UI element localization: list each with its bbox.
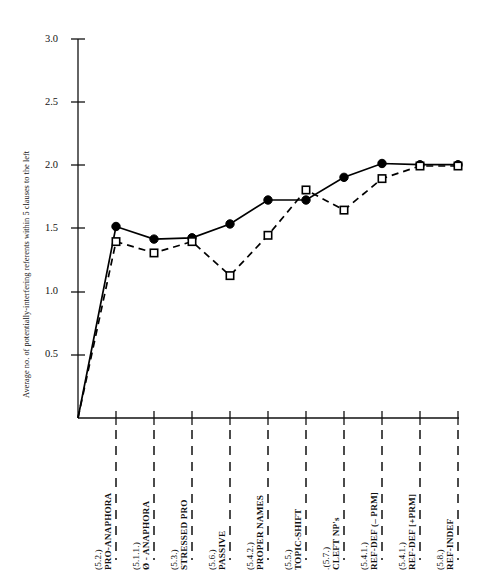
data-point-filled-circle-solid-0 bbox=[112, 222, 120, 230]
series-layer bbox=[78, 159, 462, 418]
data-point-filled-circle-solid-5 bbox=[302, 196, 310, 204]
x-axis-label-ref-7: (5.4.1.) bbox=[359, 542, 369, 570]
x-axis-label-6: CLEFT NP's.(5.7.) bbox=[322, 428, 334, 572]
plot-area bbox=[0, 0, 485, 572]
data-point-open-square-dashed-0 bbox=[112, 238, 119, 245]
chart-figure: Average no. of potentially-interfering r… bbox=[0, 0, 485, 572]
data-point-open-square-dashed-4 bbox=[264, 232, 271, 239]
x-axis-label-ref-1: (5.1.1.) bbox=[131, 542, 141, 570]
x-axis-label-name-1: Ø - ANAPHORA bbox=[141, 501, 151, 570]
x-axis-label-name-9: REF-INDEF bbox=[445, 519, 455, 570]
data-point-open-square-dashed-3 bbox=[226, 272, 233, 279]
x-axis-label-ref-9: (5.8.) bbox=[435, 549, 445, 570]
data-point-open-square-dashed-5 bbox=[302, 186, 309, 193]
data-point-filled-circle-solid-3 bbox=[226, 220, 234, 228]
x-axis-label-ref-6: .(5.7.) bbox=[321, 547, 331, 570]
x-axis-label-4: PROPER NAMES(5.4.2.) bbox=[246, 428, 258, 572]
x-axis-label-name-0: PRO-ANAPHORA bbox=[103, 493, 113, 570]
x-axis-label-name-3: PASSIVE bbox=[217, 531, 227, 570]
x-axis-label-name-2: STRESSED PRO bbox=[179, 500, 189, 570]
x-axis-label-9: REF-INDEF(5.8.) bbox=[436, 428, 448, 572]
x-axis-label-ref-0: (5.2.) bbox=[93, 549, 103, 570]
x-axis-label-1: Ø - ANAPHORA(5.1.1.) bbox=[132, 428, 144, 572]
data-point-open-square-dashed-9 bbox=[454, 162, 461, 169]
x-axis-label-ref-5: (5.5.) bbox=[283, 549, 293, 570]
data-point-open-square-dashed-2 bbox=[188, 238, 195, 245]
data-point-open-square-dashed-8 bbox=[416, 162, 423, 169]
data-point-filled-circle-solid-7 bbox=[378, 159, 386, 167]
x-axis-label-5: TOPIC-SHIFT(5.5.) bbox=[284, 428, 296, 572]
data-point-filled-circle-solid-4 bbox=[264, 196, 272, 204]
data-point-open-square-dashed-7 bbox=[378, 175, 385, 182]
x-axis-label-name-4: PROPER NAMES bbox=[255, 495, 265, 570]
x-axis-label-ref-3: (5.6.) bbox=[207, 549, 217, 570]
data-point-filled-circle-solid-1 bbox=[150, 235, 158, 243]
x-axis-label-2: STRESSED PRO(5.3.) bbox=[170, 428, 182, 572]
x-axis-label-ref-2: (5.3.) bbox=[169, 549, 179, 570]
x-axis-label-7: REF-DEF (– PRM](5.4.1.) bbox=[360, 428, 372, 572]
data-point-filled-circle-solid-6 bbox=[340, 173, 348, 181]
data-point-open-square-dashed-1 bbox=[150, 249, 157, 256]
x-axis-label-ref-4: (5.4.2.) bbox=[245, 542, 255, 570]
x-axis-label-name-5: TOPIC-SHIFT bbox=[293, 509, 303, 570]
x-axis-label-name-7: REF-DEF (– PRM] bbox=[369, 492, 379, 570]
data-point-open-square-dashed-6 bbox=[340, 206, 347, 213]
x-axis-label-3: PASSIVE(5.6.) bbox=[208, 428, 220, 572]
x-axis-label-ref-8: (5.4.1.) bbox=[397, 542, 407, 570]
x-axis-label-name-8: REF-DEF [+PRM] bbox=[407, 494, 417, 570]
x-axis-label-8: REF-DEF [+PRM](5.4.1.) bbox=[398, 428, 410, 572]
x-axis-label-name-6: CLEFT NP's bbox=[331, 517, 341, 570]
x-axis-label-0: PRO-ANAPHORA(5.2.) bbox=[94, 428, 106, 572]
